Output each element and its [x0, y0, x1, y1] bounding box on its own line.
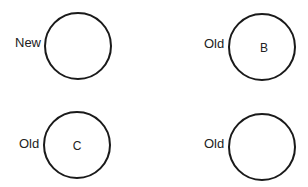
node-inner-c: C	[73, 140, 82, 152]
node-label-new: New	[15, 36, 41, 49]
node-label-old-c: Old	[19, 137, 39, 150]
node-label-old-b: Old	[204, 37, 224, 50]
circle-top-left	[45, 13, 111, 79]
node-inner-b: B	[260, 42, 268, 54]
diagram-canvas	[0, 0, 308, 187]
circle-bottom-right	[229, 114, 295, 180]
node-label-old-d: Old	[204, 137, 224, 150]
